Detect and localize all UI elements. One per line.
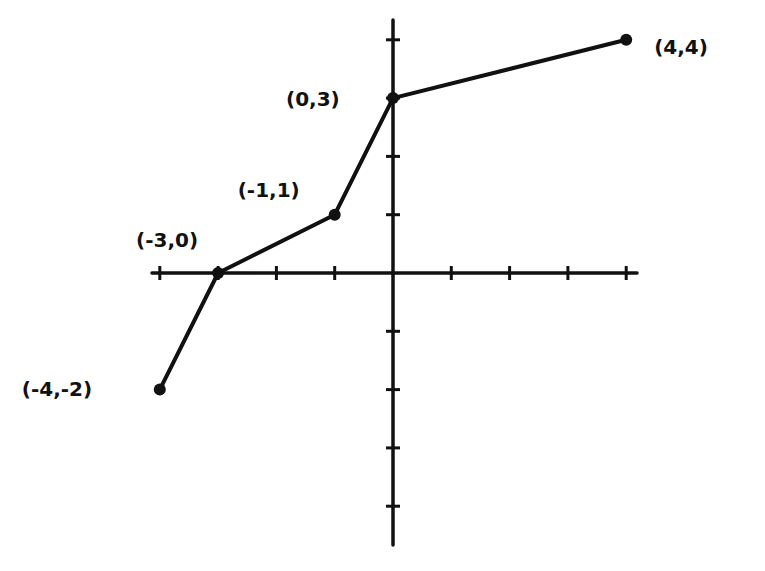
data-point (154, 384, 166, 396)
piecewise-graph: (-4,-2)(-3,0)(-1,1)(0,3)(4,4) (0, 0, 765, 571)
data-point (387, 92, 399, 104)
point-label: (4,4) (654, 35, 708, 59)
data-point (329, 209, 341, 221)
point-label: (-3,0) (136, 228, 198, 252)
data-point (620, 34, 632, 46)
point-labels: (-4,-2)(-3,0)(-1,1)(0,3)(4,4) (22, 35, 708, 401)
point-label: (0,3) (286, 87, 340, 111)
point-label: (-4,-2) (22, 377, 92, 401)
data-point (212, 267, 224, 279)
point-label: (-1,1) (238, 178, 300, 202)
